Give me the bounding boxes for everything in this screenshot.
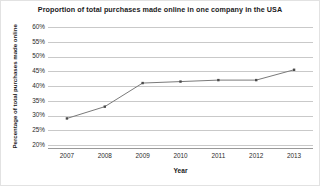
y-axis-tick-label: 25% — [5, 127, 45, 133]
chart-title: Proportion of total purchases made onlin… — [1, 5, 319, 14]
series-line — [67, 70, 294, 119]
data-point-marker — [217, 79, 219, 81]
data-point-marker — [179, 80, 181, 82]
y-axis-tick-label: 30% — [5, 112, 45, 118]
data-point-marker — [66, 117, 68, 119]
y-axis-tick-label: 45% — [5, 68, 45, 74]
plot-area — [48, 27, 313, 145]
x-axis-title: Year — [48, 167, 313, 174]
chart-container: Proportion of total purchases made onlin… — [0, 0, 320, 186]
x-axis-tick-labels: 2007200820092010201120122013 — [48, 153, 313, 165]
x-axis-tick-label: 2012 — [249, 153, 263, 159]
gridline — [48, 145, 313, 146]
x-axis-line — [48, 148, 313, 149]
y-axis-tick-label: 40% — [5, 83, 45, 89]
y-axis-tick-label: 60% — [5, 24, 45, 30]
data-point-marker — [141, 82, 143, 84]
data-point-marker — [293, 69, 295, 71]
x-axis-tick-label: 2009 — [136, 153, 150, 159]
y-axis-tick-label: 20% — [5, 142, 45, 148]
data-point-marker — [255, 79, 257, 81]
data-series-line — [48, 27, 313, 145]
y-axis-tick-label: 35% — [5, 98, 45, 104]
x-axis-tick-label: 2013 — [287, 153, 301, 159]
y-axis-tick-labels: 60%55%50%45%40%35%30%25%20% — [1, 27, 45, 145]
x-axis-tick-label: 2010 — [173, 153, 187, 159]
data-point-marker — [104, 105, 106, 107]
x-axis-tick-label: 2007 — [60, 153, 74, 159]
x-axis-tick-label: 2008 — [98, 153, 112, 159]
y-axis-tick-label: 50% — [5, 53, 45, 59]
y-axis-tick-label: 55% — [5, 39, 45, 45]
x-axis-tick-label: 2011 — [211, 153, 225, 159]
